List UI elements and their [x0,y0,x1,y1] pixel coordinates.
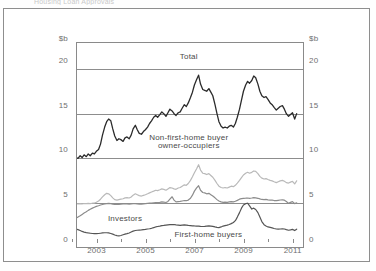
y-tick-left-20: 20 [46,56,68,65]
clipped-caption-fragment: Housing Loan Approvals [34,0,234,5]
series-line-investors [76,186,297,218]
y-axis-unit-left: $b [46,34,68,43]
annotation-total: Total [129,52,249,62]
figure-frame: $b $b 05101520 05101520 2003200520072009… [3,8,370,262]
y-tick-right-15: 15 [309,101,331,110]
y-tick-left-15: 15 [46,101,68,110]
x-tickmark-2002 [72,239,73,242]
plot-area: TotalNon-first-home buyerowner-occupiers… [76,42,304,248]
y-tick-right-5: 5 [309,190,331,199]
y-tick-left-10: 10 [46,145,68,154]
y-tick-right-10: 10 [309,145,331,154]
annotation-owner-occupiers: owner-occupiers [129,141,249,151]
y-tick-right-0: 0 [309,235,331,244]
annotation-first-home-buyers: First-home buyers [148,230,268,240]
y-tick-left-0: 0 [46,235,68,244]
series-line-non-first-home-buyer-owner-occupiers [76,165,297,204]
chart-screenshot: Housing Loan Approvals $b $b 05101520 05… [0,0,376,271]
annotation-investors: Investors [65,214,185,224]
y-tick-right-20: 20 [309,56,331,65]
y-tick-left-5: 5 [46,190,68,199]
y-axis-unit-right: $b [309,34,331,43]
